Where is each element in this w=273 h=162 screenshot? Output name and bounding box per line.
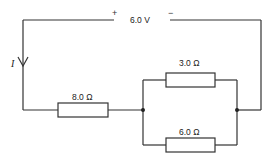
current-label: I: [10, 58, 15, 69]
resistor-3ohm-label: 3.0 Ω: [179, 58, 200, 68]
circuit-diagram: + − 6.0 V I 8.0 Ω 3.0 Ω 6.0 Ω: [0, 0, 273, 162]
junction-right: [235, 108, 239, 112]
resistor-3ohm: [166, 73, 215, 87]
battery-negative-label: −: [168, 8, 173, 18]
resistor-8ohm: [58, 103, 108, 117]
junction-left: [141, 108, 145, 112]
resistor-8ohm-label: 8.0 Ω: [72, 92, 93, 102]
battery-positive-label: +: [112, 8, 117, 18]
resistor-6ohm-label: 6.0 Ω: [179, 127, 200, 137]
battery-voltage-label: 6.0 V: [130, 15, 150, 25]
resistor-6ohm: [166, 138, 215, 152]
